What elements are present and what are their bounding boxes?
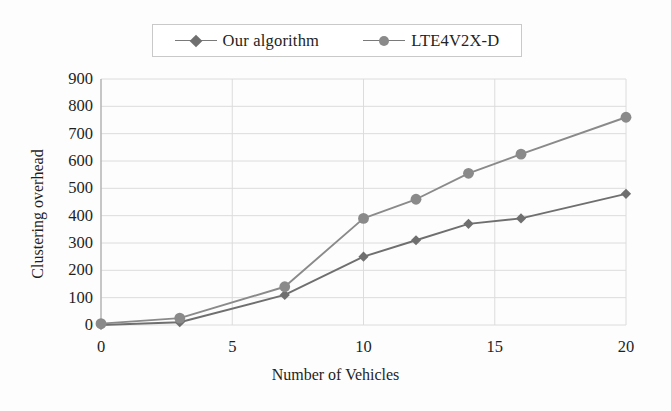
y-tick-label: 700: [41, 124, 93, 144]
data-point-marker: [358, 252, 368, 262]
data-point-marker: [358, 213, 369, 224]
gridlines: [101, 79, 626, 325]
y-axis-title: Clustering overhead: [29, 114, 47, 314]
y-tick-label: 300: [41, 233, 93, 253]
y-tick-label: 800: [41, 96, 93, 116]
x-tick-label: 5: [212, 337, 252, 357]
x-tick-label: 10: [344, 337, 384, 357]
chart-figure: Our algorithm LTE4V2X-D 0100200300400500…: [0, 0, 671, 411]
data-point-marker: [411, 194, 422, 205]
data-point-marker: [279, 281, 290, 292]
y-tick-label: 0: [41, 315, 93, 335]
y-tick-label: 400: [41, 206, 93, 226]
data-point-marker: [621, 112, 632, 123]
plot-area: 0100200300400500600700800900 05101520 Nu…: [0, 0, 671, 411]
data-point-marker: [411, 235, 421, 245]
y-tick-label: 600: [41, 151, 93, 171]
y-tick-label: 200: [41, 260, 93, 280]
x-tick-label: 15: [475, 337, 515, 357]
data-point-marker: [516, 213, 526, 223]
x-axis-title: Number of Vehicles: [0, 366, 671, 384]
data-point-marker: [174, 313, 185, 324]
data-point-marker: [463, 168, 474, 179]
y-tick-label: 500: [41, 178, 93, 198]
data-point-marker: [621, 189, 631, 199]
data-point-marker: [96, 318, 107, 329]
y-tick-label: 100: [41, 288, 93, 308]
data-point-marker: [463, 219, 473, 229]
x-tick-label: 0: [81, 337, 121, 357]
x-tick-label: 20: [606, 337, 646, 357]
data-point-marker: [516, 149, 527, 160]
y-tick-label: 900: [41, 69, 93, 89]
